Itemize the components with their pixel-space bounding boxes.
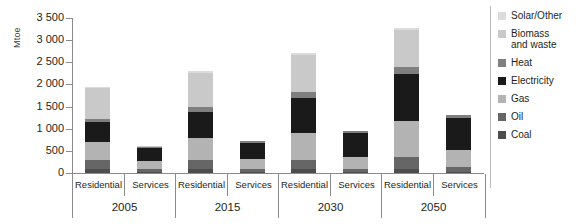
bar-segment-gas [188, 138, 213, 160]
y-axis-tick-label: 3 000 [18, 34, 64, 45]
x-axis-group-2030: ResidentialServices2030 [278, 174, 382, 218]
bar-segment-oil [291, 160, 316, 170]
bar-segment-electricity [394, 74, 419, 121]
legend-item-coal[interactable]: Coal [498, 129, 588, 140]
bar-2005-services [137, 146, 162, 173]
bar-segment-coal [137, 172, 162, 173]
legend-swatch-icon [498, 30, 506, 38]
y-axis-tick-label: 3 500 [18, 12, 64, 23]
x-axis-sector-label: Residential [279, 174, 330, 196]
bar-segment-gas [291, 133, 316, 160]
x-axis-group-2050: ResidentialServices2050 [381, 174, 486, 218]
bar-segment-biomass-and-waste [188, 73, 213, 108]
x-axis-sector-label: Residential [73, 174, 124, 196]
bar-segment-electricity [291, 98, 316, 133]
bar-segment-oil [85, 160, 110, 169]
chart-legend: Solar/OtherBiomass and wasteHeatElectric… [498, 10, 588, 147]
bar-segment-coal [188, 169, 213, 173]
bar-segment-biomass-and-waste [291, 55, 316, 92]
x-axis-year-label: 2005 [73, 196, 176, 218]
bar-segment-electricity [85, 122, 110, 142]
bar-segment-coal [343, 172, 368, 173]
x-axis-sector-labels: ResidentialServices [176, 174, 279, 196]
x-axis-sector-label: Residential [176, 174, 227, 196]
bar-segment-biomass-and-waste [394, 30, 419, 67]
bar-segment-oil [394, 157, 419, 169]
legend-item-label: Biomass and waste [511, 28, 557, 50]
legend-swatch-icon [498, 59, 506, 67]
legend-swatch-icon [498, 12, 506, 20]
y-axis-tick-label: 1 500 [18, 101, 64, 112]
bar-segment-oil [188, 160, 213, 169]
bar-2005-residential [85, 87, 110, 173]
legend-item-heat[interactable]: Heat [498, 57, 588, 68]
bar-2015-services [240, 141, 265, 173]
legend-divider [490, 6, 491, 188]
x-axis-sector-label: Services [227, 174, 279, 196]
bar-segment-coal [446, 172, 471, 173]
y-axis-tick-label: 2 000 [18, 78, 64, 89]
bar-2050-residential [394, 28, 419, 173]
bar-segment-electricity [137, 148, 162, 161]
x-axis-sector-label: Residential [382, 174, 433, 196]
bar-segment-coal [394, 169, 419, 173]
bar-2015-residential [188, 71, 213, 173]
y-axis-tick-label: 1 000 [18, 123, 64, 134]
bar-2030-residential [291, 53, 316, 173]
bar-segment-coal [85, 169, 110, 173]
legend-item-gas[interactable]: Gas [498, 93, 588, 104]
legend-item-label: Oil [511, 111, 523, 122]
x-axis-sector-labels: ResidentialServices [279, 174, 382, 196]
legend-item-oil[interactable]: Oil [498, 111, 588, 122]
x-axis-group-labels: ResidentialServices2005ResidentialServic… [72, 174, 484, 218]
x-axis-sector-labels: ResidentialServices [73, 174, 176, 196]
bar-segment-gas [240, 159, 265, 169]
legend-item-label: Electricity [511, 75, 554, 86]
bar-segment-gas [137, 161, 162, 169]
x-axis-year-label: 2030 [279, 196, 382, 218]
bar-segment-gas [343, 157, 368, 169]
bar-segment-gas [394, 121, 419, 157]
legend-swatch-icon [498, 77, 506, 85]
stacked-bar-chart: Mtoe 05001 0001 5002 0002 5003 0003 500 … [0, 0, 588, 224]
bar-segment-electricity [188, 112, 213, 139]
x-axis-sector-labels: ResidentialServices [382, 174, 485, 196]
bar-segment-electricity [240, 143, 265, 159]
bar-2050-services [446, 115, 471, 173]
bar-segment-gas [446, 150, 471, 167]
x-axis-sector-label: Services [124, 174, 176, 196]
x-axis-sector-label: Services [330, 174, 382, 196]
legend-swatch-icon [498, 131, 506, 139]
x-axis-year-label: 2015 [176, 196, 279, 218]
x-axis-group-2015: ResidentialServices2015 [175, 174, 279, 218]
legend-item-label: Gas [511, 93, 529, 104]
legend-item-biomass-and-waste[interactable]: Biomass and waste [498, 28, 588, 50]
x-axis-sector-label: Services [433, 174, 485, 196]
y-axis-tick-label: 500 [18, 145, 64, 156]
bar-segment-heat [394, 67, 419, 74]
x-axis-group-2005: ResidentialServices2005 [72, 174, 176, 218]
x-axis-year-label: 2050 [382, 196, 485, 218]
bar-segment-coal [291, 169, 316, 173]
bar-segment-gas [85, 142, 110, 160]
bar-segment-electricity [343, 133, 368, 157]
bar-segment-coal [240, 172, 265, 173]
legend-item-electricity[interactable]: Electricity [498, 75, 588, 86]
bar-segment-biomass-and-waste [85, 88, 110, 119]
bar-segment-electricity [446, 118, 471, 151]
legend-swatch-icon [498, 95, 506, 103]
legend-item-solar-other[interactable]: Solar/Other [498, 10, 588, 21]
plot-area [72, 18, 484, 173]
y-axis-tick-labels: 05001 0001 5002 0002 5003 0003 500 [18, 0, 64, 224]
legend-item-label: Heat [511, 57, 532, 68]
y-axis-tick-label: 0 [18, 167, 64, 178]
legend-swatch-icon [498, 113, 506, 121]
legend-item-label: Solar/Other [511, 10, 562, 21]
bar-2030-services [343, 131, 368, 174]
legend-item-label: Coal [511, 129, 532, 140]
y-axis-tick-label: 2 500 [18, 56, 64, 67]
